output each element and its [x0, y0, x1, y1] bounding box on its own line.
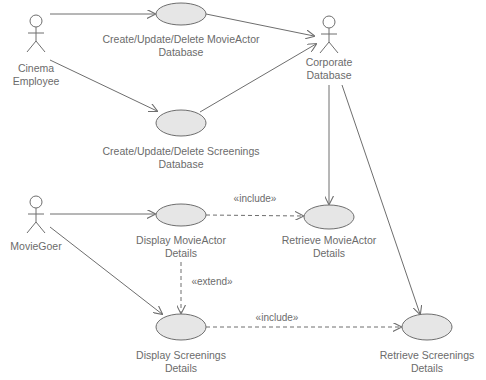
actor-label-moviegoer: MovieGoer	[10, 240, 61, 253]
usecase-label-line1: Display MovieActor	[136, 234, 226, 247]
usecase-retrieve-movieactor	[304, 205, 354, 229]
actor-cinema-employee-icon	[27, 15, 45, 52]
usecase-cud-movieactor	[156, 3, 206, 25]
usecase-label-cud-movieactor: Create/Update/Delete MovieActor Database	[103, 33, 260, 59]
usecase-cud-screenings	[156, 110, 206, 136]
usecase-label-retrieve-screenings: Retrieve Screenings Details	[380, 349, 475, 375]
actor-label-line1: Corporate	[306, 56, 353, 69]
usecase-label-cud-screenings: Create/Update/Delete Screenings Database	[102, 145, 259, 171]
usecase-label-line2: Details	[136, 247, 226, 260]
actor-label-cinema-employee: Cinema Employee	[13, 62, 60, 88]
usecase-label-line2: Details	[282, 247, 377, 260]
usecase-label-line1: Create/Update/Delete Screenings	[102, 145, 259, 158]
assoc-corporate-retrieve-screenings	[342, 85, 420, 314]
stereotype-include-movieactor: «include»	[234, 193, 277, 204]
assoc-employee-cud-screenings	[50, 60, 157, 111]
usecase-label-line2: Database	[103, 46, 260, 59]
usecase-display-screenings	[156, 314, 206, 340]
actor-label-line1: MovieGoer	[10, 240, 61, 253]
actor-moviegoer-icon	[27, 196, 45, 233]
usecase-label-retrieve-movieactor: Retrieve MovieActor Details	[282, 234, 377, 260]
include-display-to-retrieve-movieactor	[206, 215, 303, 216]
usecase-label-line2: Details	[380, 362, 475, 375]
usecase-label-display-movieactor: Display MovieActor Details	[136, 234, 226, 260]
usecase-label-display-screenings: Display Screenings Details	[136, 349, 226, 375]
actor-label-line2: Employee	[13, 75, 60, 88]
usecase-label-line2: Database	[102, 158, 259, 171]
usecase-retrieve-screenings	[402, 314, 452, 340]
usecase-label-line1: Display Screenings	[136, 349, 226, 362]
actor-corporate-database-icon	[320, 16, 338, 53]
actor-label-line2: Database	[306, 69, 353, 82]
stereotype-include-screenings: «include»	[256, 312, 299, 323]
usecase-label-line2: Details	[136, 362, 226, 375]
stereotype-extend: «extend»	[191, 276, 232, 287]
usecase-display-movieactor	[156, 204, 206, 226]
usecase-label-line1: Create/Update/Delete MovieActor	[103, 33, 260, 46]
actor-label-line1: Cinema	[13, 62, 60, 75]
usecase-label-line1: Retrieve Screenings	[380, 349, 475, 362]
actor-label-corporate-database: Corporate Database	[306, 56, 353, 82]
usecase-label-line1: Retrieve MovieActor	[282, 234, 377, 247]
